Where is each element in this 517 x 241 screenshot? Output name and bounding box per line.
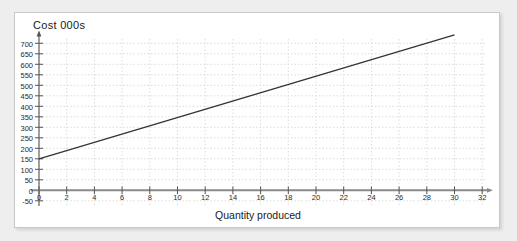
chart-panel: Cost 000s Quantity produced -50 0 50 100… — [14, 12, 500, 228]
x-tick-label: 24 — [361, 193, 381, 202]
x-tick-label: 2 — [57, 193, 77, 202]
x-tick-label: 18 — [278, 193, 298, 202]
y-tick-label: 200 — [11, 145, 33, 154]
y-tick-label: 350 — [11, 113, 33, 122]
y-tick-label: 500 — [11, 82, 33, 91]
x-axis — [31, 188, 493, 193]
y-tick-label: 300 — [11, 124, 33, 133]
y-tick-label: 250 — [11, 134, 33, 143]
y-tick-label: 100 — [11, 166, 33, 175]
x-tick-label: 10 — [168, 193, 188, 202]
chart-page: Cost 000s Quantity produced -50 0 50 100… — [0, 0, 517, 241]
x-tick-label: 12 — [195, 193, 215, 202]
x-axis-title: Quantity produced — [15, 209, 501, 221]
x-tick-label: 16 — [251, 193, 271, 202]
x-tick-label: 20 — [306, 193, 326, 202]
x-tick-label: 30 — [445, 193, 465, 202]
x-tick-label: 32 — [472, 193, 492, 202]
x-tick-label: 4 — [84, 193, 104, 202]
y-tick-label: 400 — [11, 103, 33, 112]
x-tick-label: 28 — [417, 193, 437, 202]
y-tick-label: 600 — [11, 61, 33, 70]
y-tick-label: 50 — [11, 176, 33, 185]
y-axis-title: Cost 000s — [33, 19, 85, 31]
x-tick-label: 26 — [389, 193, 409, 202]
y-tick-label: 550 — [11, 71, 33, 80]
y-tick-label: 650 — [11, 50, 33, 59]
x-tick-label: 6 — [112, 193, 132, 202]
x-tick-label: 22 — [334, 193, 354, 202]
x-tick-label: 14 — [223, 193, 243, 202]
y-tick-label: 700 — [11, 40, 33, 49]
y-tick-label: 150 — [11, 155, 33, 164]
y-tick-label: 450 — [11, 92, 33, 101]
x-tick-label: 0 — [29, 193, 49, 202]
x-tick-label: 8 — [140, 193, 160, 202]
grid-horizontal — [39, 43, 485, 201]
